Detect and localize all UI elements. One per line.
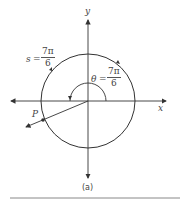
- point-p: [41, 118, 45, 122]
- angle-denominator: 6: [111, 78, 117, 88]
- arc-length-eq: =: [33, 55, 41, 64]
- arc-length-numerator: 7π: [41, 47, 55, 58]
- y-axis-label: y: [85, 7, 90, 16]
- angle-fraction: 7π 6: [107, 67, 121, 88]
- unit-circle-diagram: [0, 0, 184, 210]
- arc-length-denominator: 6: [45, 58, 51, 68]
- arc-length-var: s: [26, 55, 31, 64]
- angle-eq: =: [99, 75, 107, 84]
- figure-caption: (a): [82, 184, 93, 192]
- arc-length-fraction: 7π 6: [41, 47, 55, 68]
- angle-arrow-icon: [68, 96, 72, 100]
- x-axis-label: x: [158, 104, 163, 113]
- angle-var: θ: [91, 75, 96, 84]
- point-p-label: P: [32, 110, 38, 119]
- angle-numerator: 7π: [107, 67, 121, 78]
